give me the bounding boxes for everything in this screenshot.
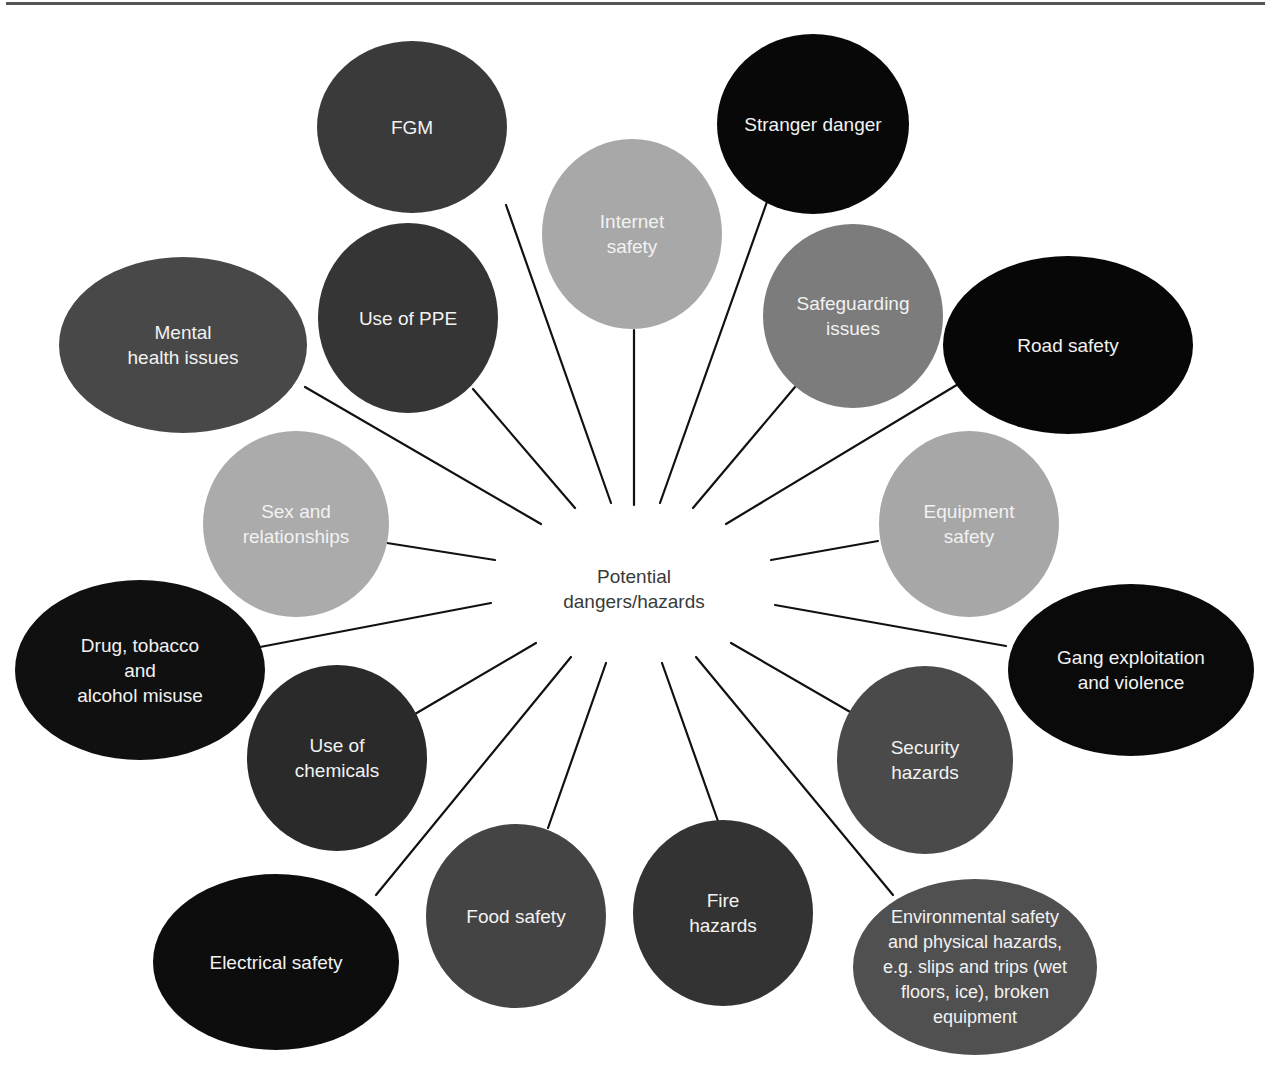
bubble-stranger-danger: Stranger danger — [717, 34, 909, 214]
bubble-gang-exploitation: Gang exploitation and violence — [1008, 584, 1254, 756]
connector-security-hazards — [731, 643, 852, 713]
connector-sex-relationships — [387, 543, 495, 560]
bubble-label: Safeguarding issues — [796, 291, 909, 341]
bubble-food-safety: Food safety — [426, 824, 606, 1008]
bubble-safeguarding-issues: Safeguarding issues — [763, 224, 943, 408]
bubble-label: Electrical safety — [209, 950, 342, 975]
connector-fire-hazards — [662, 663, 719, 824]
bubble-label: Equipment safety — [924, 499, 1015, 549]
bubble-equipment-safety: Equipment safety — [879, 431, 1059, 617]
bubble-label: Mental health issues — [128, 320, 239, 370]
center-topic-label: Potential dangers/hazards — [534, 564, 734, 614]
bubble-electrical-safety: Electrical safety — [153, 874, 399, 1050]
bubble-label: Sex and relationships — [243, 499, 350, 549]
connector-use-of-chemicals — [415, 643, 536, 714]
bubble-label: FGM — [391, 115, 433, 140]
bubble-use-of-ppe: Use of PPE — [318, 223, 498, 413]
bubble-use-of-chemicals: Use of chemicals — [247, 665, 427, 851]
bubble-label: Use of PPE — [359, 306, 457, 331]
bubble-internet-safety: Internet safety — [542, 139, 722, 329]
bubble-label: Fire hazards — [689, 888, 757, 938]
bubble-label: Food safety — [466, 904, 565, 929]
bubble-sex-relationships: Sex and relationships — [203, 431, 389, 617]
bubble-label: Drug, tobacco and alcohol misuse — [77, 633, 203, 708]
bubble-label: Environmental safety and physical hazard… — [883, 905, 1067, 1030]
connector-use-of-ppe — [473, 389, 575, 508]
bubble-drug-tobacco-alcohol: Drug, tobacco and alcohol misuse — [15, 580, 265, 760]
bubble-label: Road safety — [1017, 333, 1118, 358]
bubble-mental-health: Mental health issues — [59, 257, 307, 433]
bubble-label: Stranger danger — [744, 112, 881, 137]
bubble-label: Security hazards — [891, 735, 960, 785]
bubble-label: Gang exploitation and violence — [1057, 645, 1205, 695]
connector-safeguarding-issues — [693, 387, 795, 508]
bubble-label: Use of chemicals — [295, 733, 379, 783]
connector-equipment-safety — [771, 541, 878, 560]
bubble-label: Internet safety — [600, 209, 664, 259]
bubble-road-safety: Road safety — [943, 256, 1193, 434]
bubble-fire-hazards: Fire hazards — [633, 820, 813, 1006]
bubble-security-hazards: Security hazards — [837, 666, 1013, 854]
bubble-environmental-safety: Environmental safety and physical hazard… — [853, 879, 1097, 1055]
connector-food-safety — [548, 663, 606, 828]
bubble-fgm: FGM — [317, 41, 507, 213]
